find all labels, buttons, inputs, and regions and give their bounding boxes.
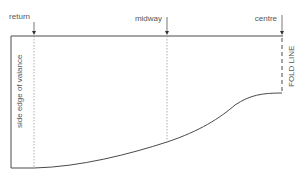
midway-arrow-icon — [165, 31, 169, 35]
centre-arrow-icon — [280, 31, 284, 35]
return-arrow-icon — [32, 31, 36, 35]
midway-label: midway — [135, 14, 162, 23]
fold-line-label: FOLD LINE — [287, 46, 296, 87]
centre-label: centre — [255, 14, 278, 23]
valance-diagram: return midway centre side edge of valanc… — [0, 0, 302, 174]
shaped-hem-curve — [11, 93, 282, 168]
side-edge-label: side edge of valance — [15, 54, 24, 128]
return-label: return — [9, 12, 30, 21]
